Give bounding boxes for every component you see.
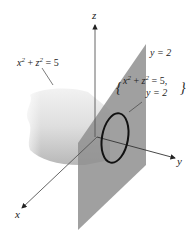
cylinder-leader-line xyxy=(42,68,53,85)
y-axis-label: y xyxy=(176,155,182,167)
x-axis-label: x xyxy=(14,208,20,220)
svg-text:y = 2: y = 2 xyxy=(145,87,167,98)
cylinder-equation-label: x2 + z2 = 5 xyxy=(16,56,59,68)
plane-equation-label: y = 2 xyxy=(149,47,171,58)
z-axis-label: z xyxy=(91,9,97,21)
diagram-canvas: z y x x2 + z2 = 5 y = 2 { x2 + z2 = 5, y… xyxy=(0,0,195,236)
right-brace: } xyxy=(180,80,186,95)
left-brace: { xyxy=(116,80,122,95)
plane-y-equals-2 xyxy=(78,44,146,230)
